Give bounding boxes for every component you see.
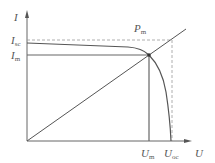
um-label: Um [141,147,155,161]
x-axis-label: U [195,147,204,159]
pm-point [147,53,151,57]
y-axis-arrow-icon [25,10,29,18]
y-axis-label: I [13,11,19,23]
im-label: Im [10,49,21,63]
x-axis-arrow-icon [184,139,192,143]
iu-characteristic-diagram: I U Isc Im Um Uoc Pm [0,0,215,163]
uoc-label: Uoc [164,147,179,161]
isc-label: Isc [10,34,21,48]
pm-label: Pm [133,22,147,36]
